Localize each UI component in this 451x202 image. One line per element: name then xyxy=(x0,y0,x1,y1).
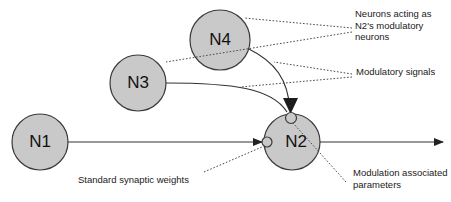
annotation-modulatory-signals: Modulatory signals xyxy=(356,66,450,78)
annotation-modulation-parameters: Modulation associated parameters xyxy=(353,167,451,190)
standard-synapse-marker[interactable] xyxy=(262,137,272,147)
annotation-modulatory-neurons: Neurons acting as N2's modulatory neuron… xyxy=(355,8,451,43)
connection-n4-to-n2 xyxy=(247,48,290,110)
leader-modulatory-signals-lower xyxy=(240,77,352,87)
annotation-synaptic-weights: Standard synaptic weights xyxy=(78,174,218,186)
node-n2-label: N2 xyxy=(285,132,307,151)
leader-synaptic-weights xyxy=(204,147,262,172)
modulation-site-marker[interactable] xyxy=(286,113,297,124)
node-n1[interactable]: N1 xyxy=(12,114,68,170)
modulatory-arrowhead-icon xyxy=(283,98,298,114)
connection-n3-to-n2 xyxy=(166,83,287,112)
node-n4[interactable]: N4 xyxy=(190,10,250,70)
node-n3-label: N3 xyxy=(127,73,149,92)
leader-modulatory-neurons-to-n4 xyxy=(244,18,352,28)
node-n1-label: N1 xyxy=(29,132,51,151)
node-n4-label: N4 xyxy=(209,30,231,49)
node-n3[interactable]: N3 xyxy=(110,55,166,111)
leader-modulatory-signals-upper xyxy=(274,62,352,74)
